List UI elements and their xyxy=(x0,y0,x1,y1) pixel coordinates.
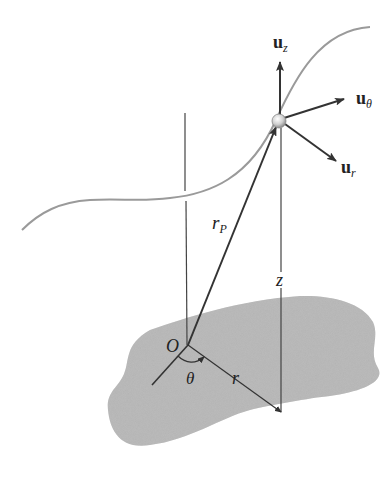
unit-vector-utheta xyxy=(284,99,344,118)
label-uz: uz xyxy=(273,32,288,55)
particle-P xyxy=(272,114,286,128)
label-r: r xyxy=(232,368,240,388)
label-utheta: uθ xyxy=(356,88,372,111)
unit-vector-ur xyxy=(285,124,336,161)
label-rP: rP xyxy=(212,212,227,236)
label-ur: ur xyxy=(341,157,356,180)
particle-path-curve xyxy=(22,27,370,230)
ground-surface xyxy=(108,296,380,446)
label-z: z xyxy=(275,270,283,290)
cylindrical-coordinates-diagram: O θ r z rP uz uθ ur xyxy=(0,0,392,480)
label-theta: θ xyxy=(186,369,194,388)
label-origin: O xyxy=(166,336,179,356)
